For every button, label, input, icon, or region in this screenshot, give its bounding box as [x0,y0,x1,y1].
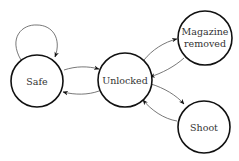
node-unlocked-label: Unlocked [102,75,148,86]
node-safe: Safe [11,55,63,107]
node-shoot-label: Shoot [190,122,218,133]
node-unlocked: Unlocked [98,53,152,107]
edge-shoot-to-unlocked [143,100,177,121]
node-magazine-removed: Magazine removed [178,11,232,65]
node-shoot: Shoot [178,101,230,153]
state-diagram: Safe Unlocked Magazine removed Shoot [0,0,239,161]
edge-unlocked-to-safe [63,91,99,94]
node-safe-label: Safe [26,76,48,87]
edge-safe-to-unlocked [64,67,99,70]
node-magazine-label-line2: removed [184,38,226,49]
edge-unlocked-to-magazine [144,39,177,60]
edge-magazine-to-unlocked [150,58,184,77]
node-magazine-label-line1: Magazine [182,26,229,37]
edge-unlocked-to-shoot [151,84,184,104]
